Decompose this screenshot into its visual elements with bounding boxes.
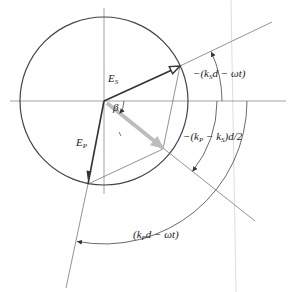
bisector-line [163,148,255,221]
phasor-diagram-canvas: ES β EP −(kSd − ωt) −(kP − kS)d/2 (kPd −… [0,0,289,292]
tick-mark [119,132,121,136]
label-E-s: ES [107,72,119,86]
label-angle-s: −(kSd − ωt) [193,67,246,81]
E-s-extension-line [180,22,272,66]
construction-line-s [163,66,180,149]
label-angle-diff: −(kP − kS)d/2 [183,130,243,144]
E-p-extension-line [66,184,88,288]
guide-vertical-line [231,0,236,292]
label-beta: β [112,101,119,113]
label-E-p: EP [75,136,88,150]
phasor-diagram: ES β EP −(kSd − ωt) −(kP − kS)d/2 (kPd −… [0,0,289,292]
arc-angle-p [77,101,247,244]
construction-line-p [88,149,163,184]
label-angle-p: (kPd − ωt) [133,228,179,242]
